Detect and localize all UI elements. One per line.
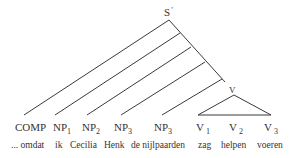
word-de-nijlpaarden: de nijlpaarden [131, 140, 185, 150]
cat-label-comp: COMP [15, 121, 46, 133]
root-label: S′ [164, 6, 173, 18]
word-helpen: helpen [221, 140, 247, 150]
edge-np3-a [121, 62, 205, 115]
cat-label-np3-b: NP3 [154, 121, 172, 136]
word-cecilia: Cecilia [70, 140, 98, 150]
word-voeren: voeren [257, 140, 283, 150]
syntax-tree-diagram: S′ V COMP NP1 NP2 NP3 NP3 V1 V2 V3 ... o… [0, 0, 298, 158]
v-node-label: V [229, 85, 236, 95]
cat-label-v3: V3 [264, 121, 278, 136]
word-ik: ik [55, 140, 63, 150]
cat-label-v2: V2 [229, 121, 243, 136]
word-henk: Henk [104, 140, 125, 150]
cat-label-np3-a: NP3 [114, 121, 132, 136]
edge-comp [24, 20, 169, 115]
spine-edge [169, 20, 225, 82]
cat-label-v1: V1 [196, 121, 210, 136]
word-omdat: ... omdat [11, 140, 45, 150]
cat-label-np2: NP2 [82, 121, 100, 136]
edge-np1 [55, 33, 180, 115]
cat-label-np1: NP1 [53, 121, 71, 136]
v-triangle [198, 95, 271, 115]
word-zag: zag [198, 140, 211, 150]
edge-np3-b [162, 79, 222, 115]
